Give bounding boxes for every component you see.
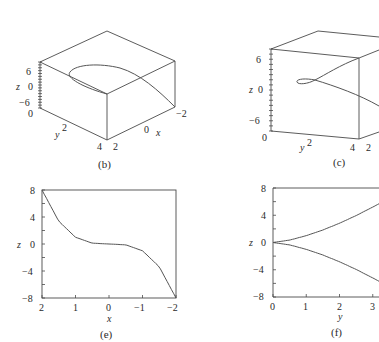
x-tick-label: 0 (106, 302, 111, 313)
y-tick-label: 0 (261, 237, 266, 248)
z-tick-label: 0 (258, 84, 263, 95)
x-tick-label: −2 (167, 302, 178, 313)
y-tick-label: 0 (28, 108, 33, 119)
panel-b: 6 0 −6 z 0 2 4 y 2 0 −2 x (b) (15, 31, 187, 171)
x-axis-label: x (155, 127, 161, 138)
z-tick-label: 6 (256, 54, 261, 65)
y-tick-label: −4 (22, 266, 33, 277)
y-tick-label: 0 (262, 132, 267, 143)
y-axis-label: z (16, 239, 21, 250)
series-line-lower (273, 243, 379, 282)
panel-f: 8 4 0 −4 −8 z 0 1 2 3 y (f) (248, 183, 379, 339)
y-axis-label: z (248, 237, 253, 248)
x-tick-label: 3 (370, 301, 375, 312)
x-axis-label: y (337, 311, 343, 322)
x-tick-label: 2 (39, 302, 44, 313)
box-top-face (40, 31, 175, 94)
caption-e: (e) (100, 328, 113, 341)
y-tick-label: −8 (253, 291, 264, 302)
y-tick-label: 4 (30, 212, 35, 223)
box-edge-top-back-right (318, 31, 379, 37)
x-tick-label: 0 (270, 301, 275, 312)
y-tick-label: −4 (253, 264, 264, 275)
x-tick-label: −1 (134, 302, 145, 313)
series-line-upper (273, 204, 379, 243)
y-tick-label: 4 (97, 141, 102, 152)
x-tick-label: 1 (73, 302, 78, 313)
curve-b (69, 65, 175, 107)
y-tick-label: 8 (30, 185, 35, 196)
y-tick-label: 2 (62, 122, 67, 133)
z-tick-label: −6 (249, 115, 260, 126)
y-tick-label: 8 (261, 183, 266, 194)
box-edge-bottom-left (40, 108, 107, 140)
y-tick-label: 2 (307, 137, 312, 148)
x-axis-label: x (106, 313, 112, 324)
box-edge-top-back (271, 31, 318, 49)
curve-c (297, 58, 379, 106)
z-axis-label: z (15, 81, 20, 92)
y-tick-label: 4 (261, 210, 266, 221)
y-tick-label: 0 (30, 239, 35, 250)
figure-canvas: 6 0 −6 z 0 2 4 y 2 0 −2 x (b) 6 0 −6 z 0… (0, 0, 379, 342)
x-tick-label: 2 (366, 142, 371, 153)
x-tick-label: −2 (176, 108, 187, 119)
y-tick-label: 4 (350, 142, 355, 153)
panel-e: 8 4 0 −4 −8 z 2 1 0 −1 −2 x (e) (16, 185, 178, 341)
z-tick-label: 6 (26, 66, 31, 77)
z-tick-label: 0 (28, 81, 33, 92)
y-tick-label: −8 (22, 293, 33, 304)
y-axis-label: y (299, 142, 305, 153)
x-tick-label: 1 (303, 301, 308, 312)
x-tick-label: 0 (144, 124, 149, 135)
caption-f: (f) (331, 326, 342, 339)
z-tick-label: −6 (19, 97, 30, 108)
x-tick-label: 2 (113, 141, 118, 152)
caption-c: (c) (333, 156, 346, 169)
box-edge-bottom (271, 131, 359, 139)
panel-c: 6 0 −6 z 0 2 4 y 2 (c) (248, 31, 379, 169)
box-edge-top-right (359, 50, 379, 58)
caption-b: (b) (98, 158, 111, 171)
z-axis-label: z (248, 84, 253, 95)
box-edge-bottom-right (107, 107, 175, 140)
box-edge-bottom-right (359, 132, 379, 139)
y-axis-label: y (54, 129, 60, 140)
box-edge-top-front (271, 49, 359, 58)
axis-ticks (273, 188, 373, 297)
series-line (42, 190, 176, 298)
